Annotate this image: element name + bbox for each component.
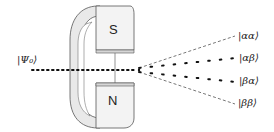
south-pole-label: S [109, 23, 118, 36]
magnet [70, 6, 134, 128]
beam-alpha-beta [139, 58, 236, 68]
diagram-canvas [0, 0, 274, 132]
output-state-alpha-beta: |αβ⟩ [239, 53, 259, 63]
output-state-beta-beta: |ββ⟩ [238, 98, 257, 108]
south-pole-face [96, 50, 134, 53]
input-state-label: |Ψ₀⟩ [17, 55, 37, 65]
stern-gerlach-diagram: S N |Ψ₀⟩ |αα⟩ |αβ⟩ |βα⟩ |ββ⟩ [0, 0, 274, 132]
output-state-alpha-alpha: |αα⟩ [238, 31, 259, 41]
north-pole-face [96, 83, 134, 86]
north-pole-label: N [108, 94, 117, 107]
split-point [138, 69, 140, 71]
output-state-beta-alpha: |βα⟩ [239, 76, 259, 86]
beam-beta-alpha [139, 72, 236, 82]
magnet-hole [78, 22, 92, 116]
